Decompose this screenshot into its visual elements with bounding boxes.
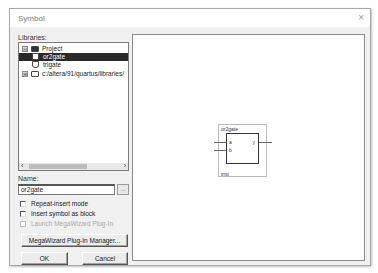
- launch-megawizard-checkbox: [20, 221, 26, 227]
- input-pin-b-line: [214, 150, 226, 151]
- library-tree[interactable]: ⊟ Project or2gate trigate ⊞ c:/altera/91…: [18, 42, 129, 171]
- pin-label-y: y: [253, 139, 256, 145]
- tree-item-label: trigate: [43, 61, 61, 69]
- symbol-dialog: Symbol × Libraries: ⊟ Project or2gate tr…: [9, 8, 371, 266]
- symbol-icon: [32, 53, 39, 60]
- expand-icon[interactable]: ⊞: [22, 71, 28, 77]
- symbol-name-label: or2gate: [221, 126, 238, 132]
- instance-label: inst: [221, 171, 229, 177]
- insert-as-block-checkbox[interactable]: [20, 211, 26, 217]
- scroll-thumb[interactable]: [29, 164, 87, 169]
- cancel-button[interactable]: Cancel: [82, 252, 128, 265]
- pin-label-b: b: [229, 147, 232, 153]
- symbol-preview-canvas: or2gate a b y inst: [132, 34, 365, 261]
- name-label: Name:: [18, 175, 39, 182]
- pin-label-a: a: [229, 139, 232, 145]
- collapse-icon[interactable]: ⊟: [22, 46, 28, 52]
- checkbox-label: Repeat-insert mode: [31, 200, 88, 208]
- tree-item-label: or2gate: [43, 53, 65, 61]
- folder-open-icon: [31, 46, 39, 52]
- browse-button[interactable]: ...: [117, 184, 129, 195]
- dialog-title: Symbol: [18, 14, 45, 23]
- symbol-preview: or2gate a b y inst: [218, 124, 267, 177]
- tree-item-or2gate[interactable]: or2gate: [19, 53, 128, 61]
- scroll-right-icon[interactable]: ›: [124, 162, 126, 169]
- tree-item-label: Project: [42, 45, 62, 53]
- title-bar: Symbol ×: [10, 9, 370, 27]
- output-pin-y-line: [259, 142, 272, 143]
- tree-item-label: c:/altera/91/quartus/libraries/: [42, 70, 124, 78]
- symbol-icon: [32, 61, 39, 68]
- input-pin-a-line: [214, 142, 226, 143]
- tree-item-project[interactable]: ⊟ Project: [19, 45, 128, 53]
- close-icon[interactable]: ×: [358, 12, 364, 23]
- ok-button[interactable]: OK: [21, 252, 68, 265]
- folder-icon: [31, 71, 39, 77]
- checkbox-label: Insert symbol as block: [31, 210, 95, 218]
- megawizard-manager-button[interactable]: MegaWizard Plug-In Manager...: [21, 234, 128, 247]
- tree-item-trigate[interactable]: trigate: [19, 61, 128, 69]
- repeat-insert-checkbox[interactable]: [20, 201, 26, 207]
- symbol-body: a b y: [226, 133, 259, 164]
- scroll-left-icon[interactable]: ‹: [21, 162, 23, 169]
- horizontal-scrollbar[interactable]: ‹ ›: [18, 163, 129, 171]
- tree-item-quartus-libraries[interactable]: ⊞ c:/altera/91/quartus/libraries/: [19, 70, 128, 78]
- libraries-label: Libraries:: [18, 34, 47, 41]
- checkbox-label: Launch MegaWizard Plug-In: [31, 220, 113, 228]
- name-input[interactable]: or2gate: [18, 184, 115, 195]
